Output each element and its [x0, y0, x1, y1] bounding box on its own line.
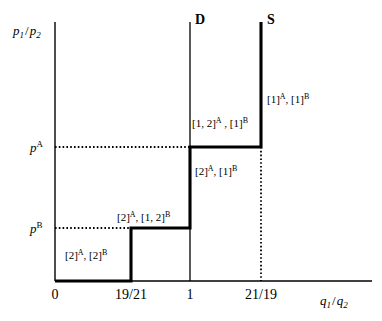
- annotation-region-bottom-left: [2]A, [2]B: [65, 249, 107, 261]
- annotation-region-top-right: [1]A, [1]B: [267, 93, 309, 105]
- y-axis-title: p1/p2: [13, 24, 41, 40]
- annotation-2-supB: B: [232, 164, 237, 173]
- step-function-plot: [0, 0, 382, 321]
- annotation-0-supB: B: [102, 248, 107, 257]
- annotation-1-part2: , [1, 2]: [136, 211, 165, 223]
- annotation-2-part2: , [1]: [214, 165, 232, 177]
- annotation-region-mid-left: [2]A, [1, 2]B: [117, 211, 170, 223]
- annotation-4-supB: B: [304, 92, 309, 101]
- annotation-2-part1: [2]: [195, 165, 208, 177]
- curve-label-demand: D: [195, 13, 205, 27]
- curve-label-supply: S: [267, 13, 275, 27]
- annotation-4-part1: [1]: [267, 93, 280, 105]
- x-tick-label-19-21: 19/21: [101, 288, 161, 302]
- x-tick-label-1: 1: [180, 288, 200, 302]
- y-axis-title-denominator-subscript: 2: [36, 30, 41, 40]
- y-tick-pA-superscript: A: [37, 139, 44, 149]
- equilibrium-step-curve: [55, 22, 261, 281]
- y-tick-label-pB: pB: [30, 221, 43, 235]
- x-axis-title: q1/q2: [320, 294, 348, 310]
- annotation-region-upper: [1, 2]A , [1]B: [192, 117, 248, 129]
- y-tick-label-pA: pA: [30, 140, 43, 154]
- annotation-4-part2: , [1]: [286, 93, 304, 105]
- annotation-1-part1: [2]: [117, 211, 130, 223]
- annotation-3-part2: , [1]: [222, 117, 243, 129]
- annotation-3-part1: [1, 2]: [192, 117, 216, 129]
- x-tick-label-21-19: 21/19: [231, 288, 291, 302]
- figure-canvas: p1/p2 q1/q2 pA pB 0 19/21 1 21/19 D S [2…: [0, 0, 382, 321]
- annotation-0-part2: , [2]: [84, 249, 102, 261]
- x-axis-title-denominator-subscript: 2: [343, 300, 348, 310]
- annotation-1-supB: B: [165, 210, 170, 219]
- annotation-region-mid-right: [2]A, [1]B: [195, 165, 237, 177]
- annotation-0-part1: [2]: [65, 249, 78, 261]
- x-tick-label-0: 0: [45, 288, 65, 302]
- annotation-3-supB: B: [243, 116, 248, 125]
- y-tick-pB-superscript: B: [37, 220, 43, 230]
